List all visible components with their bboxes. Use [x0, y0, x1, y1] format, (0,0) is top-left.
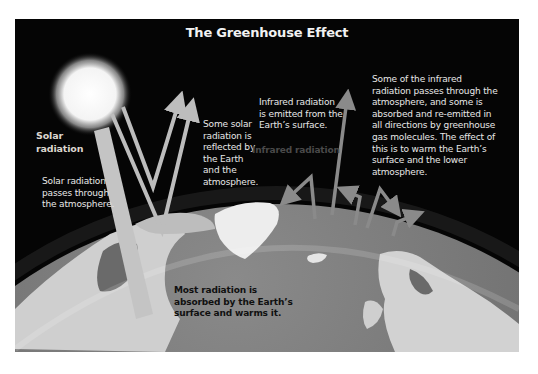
label-line: Infrared radiation	[259, 97, 343, 109]
label-line: Some solar	[203, 119, 258, 131]
label-line: passes through	[42, 188, 114, 200]
label-line: radiation passes through the	[372, 86, 498, 98]
absorbed-label: Most radiation is absorbed by the Earth’…	[174, 285, 293, 320]
label-line: atmosphere.	[203, 177, 258, 189]
label-line: and the	[203, 165, 258, 177]
label-line: atmosphere.	[372, 167, 498, 179]
solar-passes-label: Solar radiation passes through the atmos…	[42, 176, 114, 211]
greenhouse-diagram: The Greenhouse Effect Solar radiation So…	[15, 19, 519, 352]
label-line: radiation	[36, 143, 83, 156]
label-line: all directions by greenhouse	[372, 120, 498, 132]
infrared-emitted-label: Infrared radiation is emitted from the E…	[259, 97, 343, 132]
label-line: Some of the infrared	[372, 74, 498, 86]
label-line: atmosphere, and some is	[372, 97, 498, 109]
label-line: absorbed and re-emitted in	[372, 109, 498, 121]
label-line: the atmosphere.	[42, 199, 114, 211]
label-line: radiation is	[203, 131, 258, 143]
label-line: surface and the lower	[372, 155, 498, 167]
label-line: Earth’s surface.	[259, 120, 343, 132]
diagram-title: The Greenhouse Effect	[15, 25, 519, 40]
label-line: Solar radiation	[42, 176, 114, 188]
label-line: gas molecules. The effect of	[372, 132, 498, 144]
solar-radiation-label: Solar radiation	[36, 130, 83, 155]
label-line: Most radiation is	[174, 285, 293, 297]
label-line: absorbed by the Earth’s	[174, 297, 293, 309]
label-line: reflected by	[203, 142, 258, 154]
label-line: this is to warm the Earth’s	[372, 144, 498, 156]
label-line: surface and warms it.	[174, 308, 293, 320]
label-line: Solar	[36, 130, 83, 143]
infrared-faint-label: Infrared radiation	[252, 145, 340, 157]
label-line: the Earth	[203, 154, 258, 166]
reflected-label: Some solar radiation is reflected by the…	[203, 119, 258, 189]
earth-globe	[15, 193, 519, 352]
label-line: is emitted from the	[259, 109, 343, 121]
greenhouse-gas-label: Some of the infrared radiation passes th…	[372, 74, 498, 178]
sun-icon	[48, 52, 132, 136]
